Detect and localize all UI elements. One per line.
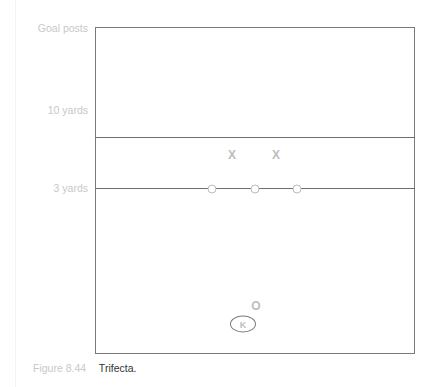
figure-number: Figure 8.44 <box>33 362 86 374</box>
ten-yard-line <box>95 137 415 138</box>
defender-x-2: X <box>272 149 280 161</box>
three-yards-label: 3 yards <box>54 182 88 194</box>
kicker-k: K <box>240 319 247 329</box>
ten-yards-label: 10 yards <box>48 104 88 116</box>
goal-posts-label: Goal posts <box>38 22 88 34</box>
kicker-circle: K <box>230 316 256 333</box>
lineman-o-2 <box>251 185 260 194</box>
holder-o: O <box>251 299 260 313</box>
page-edge <box>15 0 16 387</box>
lineman-o-3 <box>293 185 302 194</box>
figure-caption: Figure 8.44 Trifecta. <box>33 362 136 374</box>
defender-x-1: X <box>228 149 236 161</box>
figure-title: Trifecta. <box>99 362 137 374</box>
lineman-o-1 <box>208 185 217 194</box>
